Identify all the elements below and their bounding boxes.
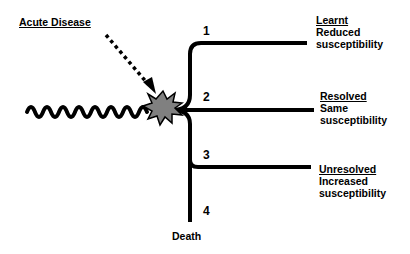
outcome-line: Same — [320, 102, 387, 114]
outcome-line: Increased — [319, 175, 386, 187]
dotted-arrow — [106, 35, 156, 94]
outcome-heading: Unresolved — [319, 163, 386, 175]
wavy-line — [27, 107, 147, 117]
outcome-heading: Learnt — [316, 14, 383, 26]
death-label: Death — [172, 230, 201, 242]
outcome-learnt: Learnt Reduced susceptibility — [316, 14, 383, 50]
branch-number-2: 2 — [203, 90, 210, 104]
outcome-line: susceptibility — [320, 114, 387, 126]
starburst-icon — [143, 91, 182, 125]
branch-number-4: 4 — [203, 204, 210, 218]
acute-disease-label: Acute Disease — [19, 16, 91, 28]
branch-number-3: 3 — [203, 148, 210, 162]
outcome-line: Reduced — [316, 26, 383, 38]
outcome-unresolved: Unresolved Increased susceptibility — [319, 163, 386, 199]
branch-lines — [172, 43, 314, 222]
outcome-heading: Resolved — [320, 90, 387, 102]
outcome-line: susceptibility — [319, 187, 386, 199]
outcome-line: susceptibility — [316, 38, 383, 50]
outcome-resolved: Resolved Same susceptibility — [320, 90, 387, 126]
branch-number-1: 1 — [203, 24, 210, 38]
